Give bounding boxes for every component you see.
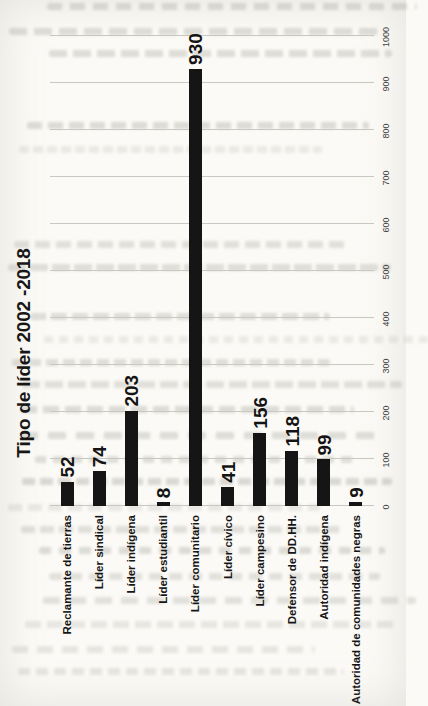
value-axis-tick-label: 800	[381, 123, 391, 138]
category-label: Líder cívico	[220, 515, 236, 579]
bar-value-label: 41	[218, 462, 237, 483]
bar-value-label: 74	[90, 446, 109, 467]
bar	[61, 482, 74, 506]
gridline	[50, 176, 374, 177]
gridline	[50, 364, 374, 365]
gridline	[50, 411, 374, 412]
gridline	[50, 35, 374, 36]
value-axis-tick-label: 1000	[381, 27, 391, 47]
value-axis-tick-label: 300	[381, 358, 391, 373]
bar-value-label: 8	[154, 488, 173, 499]
category-label: Líder sindical	[91, 515, 107, 589]
bar	[317, 459, 330, 506]
bar-value-label: 156	[250, 397, 269, 429]
bar-value-label: 118	[282, 416, 301, 447]
value-axis-tick-label: 900	[381, 76, 391, 91]
category-label: Líder indígena	[123, 515, 139, 594]
bar-value-label: 203	[122, 375, 141, 407]
bar-value-label: 52	[58, 456, 77, 477]
category-label: Autoridad de comunidades negras	[348, 515, 364, 704]
gridline	[50, 223, 374, 224]
value-axis-tick-label: 500	[381, 264, 391, 279]
bar	[349, 502, 362, 506]
bar	[125, 411, 138, 506]
bar	[221, 487, 234, 506]
value-axis-tick-label: 200	[381, 405, 391, 420]
bar-value-label: 99	[314, 434, 333, 455]
category-label: Defensor de DD.HH.	[284, 515, 300, 624]
value-axis-tick-label: 100	[381, 452, 391, 467]
gridline	[50, 270, 374, 271]
bar	[157, 502, 170, 506]
category-label: Líder campesino	[252, 515, 268, 606]
value-axis-tick-label: 600	[381, 217, 391, 232]
category-label: Líder comunitario	[187, 515, 203, 612]
gridline	[50, 82, 374, 83]
gridline	[50, 317, 374, 318]
category-label: Líder estudiantil	[155, 515, 171, 604]
bar	[93, 471, 106, 506]
bar	[189, 69, 202, 506]
value-axis-tick-label: 700	[381, 170, 391, 185]
category-label: Autoridad indígena	[316, 515, 332, 620]
bar-value-label: 9	[346, 487, 365, 498]
bar-value-label: 930	[186, 33, 205, 65]
value-axis-tick-label: 400	[381, 311, 391, 326]
bar	[285, 451, 298, 506]
category-label: Reclamante de tierras	[59, 515, 75, 635]
bar	[253, 433, 266, 506]
value-axis-tick-label: 0	[381, 504, 391, 509]
chart-title: Tipo de líder 2002 -2018	[13, 0, 35, 706]
gridline	[50, 129, 374, 130]
